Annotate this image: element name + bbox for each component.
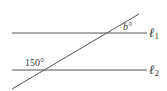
parallel-lines-diagram: b° 150° ℓ1 ℓ2 <box>0 0 167 91</box>
transversal-line <box>12 14 139 89</box>
angle-150-label: 150° <box>25 57 44 68</box>
line-l1-label: ℓ1 <box>149 25 159 41</box>
line-l2-label: ℓ2 <box>149 62 159 78</box>
angle-b-label: b° <box>123 21 132 32</box>
